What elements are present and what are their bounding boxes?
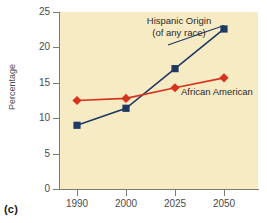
figure-panel-c: 0 5 10 15 20 25 1990 2000 2025 2050 Perc… [0, 0, 267, 223]
y-axis-label-25: 25 [26, 7, 50, 17]
y-axis-label-0: 0 [26, 184, 50, 194]
x-axis-label-2000: 2000 [105, 198, 147, 209]
y-axis-line [59, 12, 60, 190]
y-axis-label-10: 10 [26, 113, 50, 123]
figure-caption: (c) [4, 203, 18, 215]
y-axis-tick-10 [53, 118, 59, 119]
y-axis-tick-25 [53, 12, 59, 13]
y-axis-tick-0 [53, 189, 59, 190]
y-axis-label-20: 20 [26, 42, 50, 52]
x-axis-tick-1990 [77, 190, 78, 196]
series-annotation-african-american-line1: African American [181, 86, 253, 98]
series-annotation-hispanic-line1: Hispanic Origin [133, 15, 225, 27]
x-axis-label-1990: 1990 [56, 198, 98, 209]
x-axis-line [59, 189, 259, 190]
y-axis-tick-5 [53, 154, 59, 155]
series-annotation-african-american: African American [181, 86, 253, 98]
series-annotation-hispanic-line2: (of any race) [133, 27, 225, 39]
series-annotation-hispanic: Hispanic Origin (of any race) [133, 15, 225, 39]
y-axis-label-5: 5 [26, 149, 50, 159]
x-axis-label-2025: 2025 [154, 198, 196, 209]
x-axis-tick-2050 [224, 190, 225, 196]
x-axis-tick-2025 [175, 190, 176, 196]
y-axis-label-15: 15 [26, 78, 50, 88]
y-axis-tick-20 [53, 47, 59, 48]
y-axis-title: Percentage [7, 47, 17, 127]
x-axis-tick-2000 [126, 190, 127, 196]
y-axis-tick-15 [53, 83, 59, 84]
x-axis-label-2050: 2050 [203, 198, 245, 209]
